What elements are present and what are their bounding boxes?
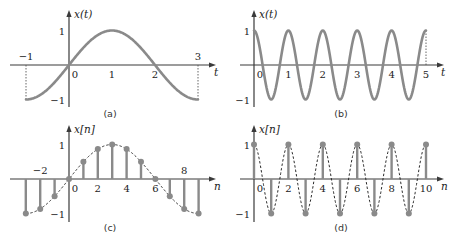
x-axis-label: t <box>214 66 219 78</box>
panel-a-continuous-sine: x(t)t1−1−10123(a) <box>10 8 219 119</box>
y-tick-label: −1 <box>235 209 250 220</box>
y-axis-label: x[n] <box>74 123 96 135</box>
y-axis-label: x(t) <box>74 8 92 20</box>
stem-marker <box>285 142 291 148</box>
x-tick-label: 1 <box>109 69 115 80</box>
signals-figure: x(t)t1−1−10123(a) x(t)t1−1012345(b) x[n]… <box>0 0 457 243</box>
x-tick-label: 3 <box>354 69 360 80</box>
stem-marker <box>109 142 115 148</box>
x-tick-label: 3 <box>195 51 201 62</box>
x-tick-label: 8 <box>181 165 187 176</box>
y-tick-label: 1 <box>244 26 250 37</box>
y-tick-label: −1 <box>50 209 65 220</box>
stem-marker <box>138 159 144 165</box>
x-tick-label: 8 <box>388 183 394 194</box>
x-tick-label: −1 <box>19 51 34 62</box>
x-tick-label: 4 <box>320 183 326 194</box>
panel-caption: (b) <box>334 108 347 119</box>
panel-caption: (a) <box>103 108 116 119</box>
panel-c-discrete-sine: x[n]n1−1−202468(c) <box>10 123 221 233</box>
y-tick-label: 1 <box>59 26 65 37</box>
y-axis-arrow-icon <box>251 10 256 17</box>
stem-marker <box>124 146 130 152</box>
x-tick-label: 10 <box>420 183 433 194</box>
stem-marker <box>66 176 72 182</box>
x-axis-label: n <box>214 180 221 192</box>
y-axis-arrow-icon <box>251 125 256 132</box>
x-tick-label: 5 <box>423 69 429 80</box>
stem-marker <box>181 206 187 212</box>
y-axis-label: x(t) <box>259 8 277 20</box>
x-tick-label: 2 <box>152 69 158 80</box>
x-axis-label: t <box>441 66 446 78</box>
stem-marker <box>320 142 326 148</box>
panel-d-discrete-cosine: x[n]n1−10246810(d) <box>235 123 448 233</box>
stem-marker <box>389 142 395 148</box>
x-tick-label: 6 <box>354 183 360 194</box>
stem-marker <box>167 193 173 199</box>
x-tick-label: 0 <box>257 183 263 194</box>
y-tick-label: −1 <box>235 95 250 106</box>
stem-marker <box>152 176 158 182</box>
x-tick-label: 1 <box>285 69 291 80</box>
stem-marker <box>196 211 202 217</box>
x-tick-label: 4 <box>123 183 129 194</box>
x-tick-label: 4 <box>388 69 394 80</box>
stem-marker <box>23 211 29 217</box>
x-tick-label: 2 <box>320 69 326 80</box>
stem-marker <box>423 142 429 148</box>
y-tick-label: 1 <box>244 140 250 151</box>
stem-marker <box>268 211 274 217</box>
x-tick-label: 0 <box>72 183 78 194</box>
y-axis-label: x[n] <box>259 123 281 135</box>
stem-marker <box>337 211 343 217</box>
stem-marker <box>95 146 101 152</box>
stem-marker <box>406 211 412 217</box>
panel-caption: (c) <box>104 222 117 233</box>
x-tick-label: −2 <box>33 165 48 176</box>
panel-b-continuous-cosine: x(t)t1−1012345(b) <box>235 8 446 119</box>
stem-marker <box>37 206 43 212</box>
stem-marker <box>354 142 360 148</box>
y-tick-label: 1 <box>59 140 65 151</box>
x-tick-label: 0 <box>72 69 78 80</box>
y-axis-arrow-icon <box>66 125 71 132</box>
stem-marker <box>303 211 309 217</box>
x-tick-label: 2 <box>285 183 291 194</box>
x-tick-label: 2 <box>95 183 101 194</box>
x-axis-label: n <box>441 180 448 192</box>
stem-marker <box>80 159 86 165</box>
panel-caption: (d) <box>334 222 347 233</box>
stem-marker <box>251 142 257 148</box>
x-tick-label: 6 <box>152 183 158 194</box>
y-tick-label: −1 <box>50 95 65 106</box>
y-axis-arrow-icon <box>66 10 71 17</box>
stem-marker <box>371 211 377 217</box>
stem-marker <box>52 193 58 199</box>
